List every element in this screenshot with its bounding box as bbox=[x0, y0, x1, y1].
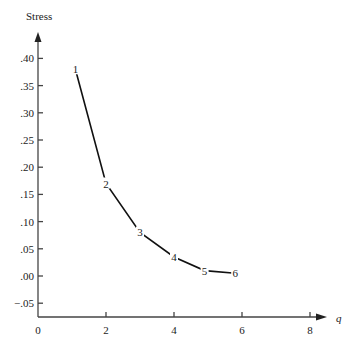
point-label: 3 bbox=[137, 226, 143, 238]
x-tick-label: 6 bbox=[239, 324, 245, 336]
y-tick-label: .15 bbox=[20, 188, 34, 200]
point-label: 6 bbox=[232, 267, 238, 279]
point-label: 1 bbox=[73, 63, 79, 75]
x-axis-arrow-icon bbox=[316, 314, 327, 321]
point-label: 2 bbox=[103, 178, 109, 190]
point-label: 5 bbox=[202, 265, 208, 277]
x-tick-label: 0 bbox=[35, 324, 41, 336]
y-tick-label: .40 bbox=[20, 52, 34, 64]
y-axis-arrow-icon bbox=[35, 32, 42, 42]
x-axis-label: q bbox=[336, 312, 342, 324]
y-tick-label: .05 bbox=[20, 243, 34, 255]
chart: Stressq.40.35.30.25.20.15.10.05.00−.0502… bbox=[0, 0, 358, 349]
stress-curve bbox=[75, 69, 235, 273]
y-axis-label: Stress bbox=[26, 10, 52, 22]
x-tick-label: 4 bbox=[171, 324, 177, 336]
y-tick-label: .30 bbox=[20, 107, 34, 119]
y-tick-label: .20 bbox=[20, 161, 34, 173]
y-tick-label: .35 bbox=[20, 80, 34, 92]
y-tick-label: −.05 bbox=[14, 297, 34, 309]
x-tick-label: 8 bbox=[307, 324, 313, 336]
x-tick-label: 2 bbox=[103, 324, 109, 336]
point-label: 4 bbox=[171, 251, 177, 263]
y-tick-label: .10 bbox=[20, 216, 34, 228]
y-tick-label: .25 bbox=[20, 134, 34, 146]
y-tick-label: .00 bbox=[20, 270, 34, 282]
